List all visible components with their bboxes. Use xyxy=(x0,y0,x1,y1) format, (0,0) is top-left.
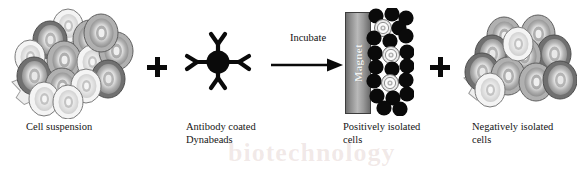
figure-canvas: biotechnology xyxy=(0,0,585,169)
negatively-isolated-caption: Negatively isolated cells xyxy=(472,120,585,146)
plus-icon xyxy=(147,57,167,77)
magnet-bead-column-icon xyxy=(366,8,414,116)
antibody-coated-bead-icon xyxy=(183,30,253,92)
right-arrow-icon xyxy=(271,58,343,72)
cell-cluster-icon xyxy=(6,4,146,119)
incubate-label: Incubate xyxy=(268,32,348,43)
cell-cluster-icon xyxy=(462,8,577,118)
magnet-label: Magnet xyxy=(352,44,364,82)
dynabeads-caption: Antibody coated Dynabeads xyxy=(186,120,306,146)
positively-isolated-caption: Positively isolated cells xyxy=(343,120,463,146)
plus-icon xyxy=(430,57,450,77)
cell-suspension-caption: Cell suspension xyxy=(26,120,156,133)
